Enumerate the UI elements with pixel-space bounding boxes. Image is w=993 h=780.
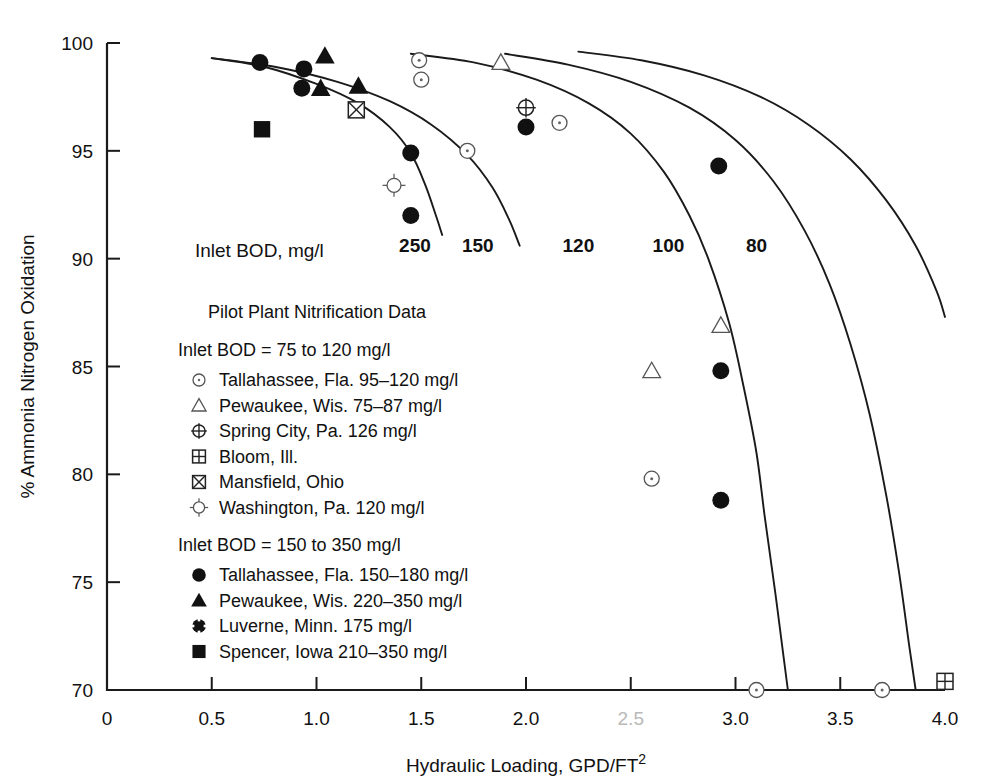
curve-label: 120: [563, 235, 595, 256]
marker-circle-ticks: [383, 174, 406, 197]
legend-group-heading: Inlet BOD = 75 to 120 mg/l: [178, 340, 391, 360]
marker-triangle-open: [192, 399, 206, 411]
y-axis-tick-label: 75: [72, 572, 93, 593]
legend-item-label: Mansfield, Ohio: [219, 472, 344, 492]
marker-circle-filled: [518, 119, 535, 136]
marker-circle-dot: [749, 683, 764, 698]
marker-circle-cross: [191, 423, 207, 439]
y-axis-tick-label: 85: [72, 357, 93, 378]
marker-circle-notched: [191, 618, 207, 634]
marker-circle-filled: [251, 54, 268, 71]
bod-curve: [505, 54, 916, 690]
y-axis-tick-label: 80: [72, 464, 93, 485]
marker-circle-dot: [193, 374, 205, 386]
x-axis-tick-label: 3.5: [827, 708, 853, 729]
marker-circle-dot: [414, 72, 429, 87]
x-axis-tick-label: 1.5: [408, 708, 434, 729]
marker-square-grid: [193, 450, 206, 463]
x-axis-tick-label: 3.0: [722, 708, 748, 729]
marker-circle-dot: [644, 471, 659, 486]
legend-item-label: Spencer, Iowa 210–350 mg/l: [219, 642, 447, 662]
marker-square-filled: [254, 121, 270, 137]
marker-square-x: [193, 476, 206, 489]
legend-layer: Pilot Plant Nitrification DataInlet BOD …: [178, 302, 468, 662]
marker-triangle-open: [712, 317, 730, 332]
y-axis-tick-label: 100: [61, 33, 93, 54]
nitrification-scatter-chart: 70758085909510000.51.01.52.02.53.03.54.0…: [0, 0, 993, 780]
marker-circle-filled: [710, 157, 727, 174]
marker-circle-filled: [295, 60, 312, 77]
legend-item-label: Spring City, Pa. 126 mg/l: [219, 421, 417, 441]
x-axis-tick-label: 2.5: [618, 708, 644, 729]
marker-circle-filled: [293, 80, 310, 97]
legend-item-label: Pewaukee, Wis. 75–87 mg/l: [219, 396, 442, 416]
y-axis-tick-label: 95: [72, 141, 93, 162]
marker-circle-filled: [402, 144, 419, 161]
marker-triangle-filled: [349, 76, 369, 93]
marker-square-grid: [937, 673, 953, 689]
legend-item-label: Luverne, Minn. 175 mg/l: [219, 616, 412, 636]
legend-item-label: Tallahassee, Fla. 150–180 mg/l: [219, 565, 468, 585]
marker-triangle-open: [643, 362, 661, 377]
legend-item-label: Bloom, Ill.: [219, 447, 298, 467]
x-axis-tick-label: 4.0: [932, 708, 958, 729]
marker-circle-filled: [712, 362, 729, 379]
legend-group-heading: Inlet BOD = 150 to 350 mg/l: [178, 535, 401, 555]
marker-triangle-filled: [315, 46, 335, 63]
marker-circle-ticks: [190, 498, 208, 516]
x-axis-tick-label: 1.0: [303, 708, 329, 729]
y-axis-title: % Ammonia Nitrogen Oxidation: [17, 234, 38, 498]
marker-triangle-filled: [191, 593, 207, 607]
chart-root: 70758085909510000.51.01.52.02.53.03.54.0…: [0, 0, 993, 780]
curve-label: 150: [462, 235, 494, 256]
x-axis-tick-label: 0.5: [199, 708, 225, 729]
marker-circle-dot: [875, 683, 890, 698]
marker-circle-filled: [402, 207, 419, 224]
legend-item-label: Tallahassee, Fla. 95–120 mg/l: [219, 370, 458, 390]
marker-circle-filled: [192, 568, 206, 582]
marker-circle-dot: [460, 143, 475, 158]
bod-curve: [578, 52, 945, 317]
y-axis-tick-label: 70: [72, 680, 93, 701]
curve-label: 250: [399, 235, 431, 256]
marker-square-filled: [192, 645, 205, 658]
marker-square-x: [348, 102, 364, 118]
marker-triangle-filled: [311, 78, 331, 95]
curve-label: 80: [746, 235, 767, 256]
marker-circle-dot: [412, 53, 427, 68]
legend-item-label: Washington, Pa. 120 mg/l: [219, 498, 424, 518]
marker-circle-cross: [516, 98, 536, 118]
legend-title: Pilot Plant Nitrification Data: [208, 302, 427, 322]
y-axis-tick-label: 90: [72, 249, 93, 270]
marker-circle-dot: [552, 115, 567, 130]
curve-caption: Inlet BOD, mg/l: [195, 240, 324, 261]
legend-item-label: Pewaukee, Wis. 220–350 mg/l: [219, 591, 462, 611]
marker-triangle-open: [492, 54, 510, 69]
marker-circle-filled: [712, 492, 729, 509]
curve-label: 100: [653, 235, 685, 256]
x-axis-title: Hydraulic Loading, GPD/FT2: [406, 751, 646, 776]
x-axis-tick-label: 0: [102, 708, 113, 729]
x-axis-tick-label: 2.0: [513, 708, 539, 729]
